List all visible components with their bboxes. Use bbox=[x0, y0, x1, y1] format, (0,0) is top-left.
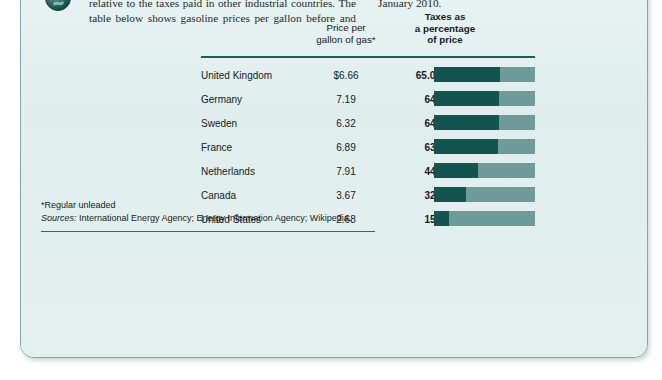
table-header-row: Price per gallon of gas* Taxes as a perc… bbox=[181, 12, 541, 54]
bar-fill bbox=[434, 187, 466, 202]
cell-price: 7.91 bbox=[299, 166, 393, 177]
bar-track bbox=[434, 211, 535, 226]
cell-country: Netherlands bbox=[201, 166, 255, 177]
column-header-price: Price per gallon of gas* bbox=[299, 22, 393, 45]
bar-fill bbox=[434, 211, 449, 226]
bar-fill bbox=[434, 91, 499, 106]
bar-fill bbox=[434, 139, 498, 154]
cell-price: 6.89 bbox=[299, 142, 393, 153]
bar-track bbox=[434, 139, 535, 154]
price-header-line2: gallon of gas* bbox=[299, 34, 393, 46]
table-row: France6.8963 bbox=[181, 138, 541, 162]
percent-header-line2: a percentage bbox=[393, 23, 497, 35]
bar-track bbox=[434, 187, 535, 202]
bar-fill bbox=[434, 163, 478, 178]
bar-fill bbox=[434, 67, 500, 82]
cell-country: Germany bbox=[201, 94, 242, 105]
table-notes: *Regular unleaded Sources: International… bbox=[41, 199, 401, 225]
cell-price: 7.19 bbox=[299, 94, 393, 105]
table-bottom-rule bbox=[41, 231, 375, 232]
bar-fill bbox=[434, 115, 499, 130]
bar-track bbox=[434, 91, 535, 106]
table-top-rule bbox=[201, 56, 535, 58]
sources-text: International Energy Agency; Energy Info… bbox=[77, 213, 352, 223]
price-header-line1: Price per bbox=[299, 22, 393, 34]
cell-country: France bbox=[201, 142, 232, 153]
table-row: Germany7.1964 bbox=[181, 90, 541, 114]
bar-track bbox=[434, 115, 535, 130]
cell-country: Sweden bbox=[201, 118, 237, 129]
footnote-regular-unleaded: *Regular unleaded bbox=[41, 199, 401, 212]
cell-country: United Kingdom bbox=[201, 70, 272, 81]
sources-line: Sources: International Energy Agency; En… bbox=[41, 212, 401, 225]
bar-track bbox=[434, 163, 535, 178]
globe-icon bbox=[43, 0, 73, 13]
percent-header-line1: Taxes as bbox=[393, 11, 497, 23]
percent-header-line3: of price bbox=[393, 34, 497, 46]
table-row: Netherlands7.9144 bbox=[181, 162, 541, 186]
cell-price: $6.66 bbox=[299, 70, 393, 81]
info-card: Are our gas taxes too high? They certain… bbox=[20, 0, 648, 358]
column-header-percent: Taxes as a percentage of price bbox=[393, 11, 497, 46]
cell-price: 6.32 bbox=[299, 118, 393, 129]
page-root: Are our gas taxes too high? They certain… bbox=[0, 0, 662, 380]
table-row: United Kingdom$6.6665.0% bbox=[181, 66, 541, 90]
bar-track bbox=[434, 67, 535, 82]
sources-label: Sources: bbox=[41, 213, 77, 223]
table-row: Sweden6.3264 bbox=[181, 114, 541, 138]
